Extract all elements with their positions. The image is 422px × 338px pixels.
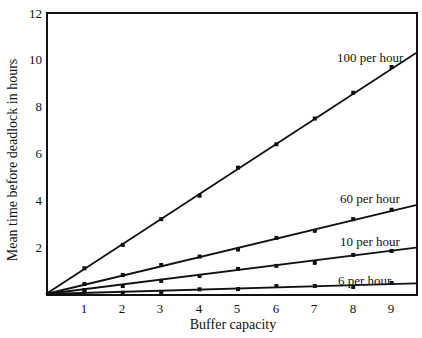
series-layer xyxy=(46,53,416,295)
data-point-marker xyxy=(236,248,240,252)
data-point-marker xyxy=(351,91,355,95)
data-point-marker xyxy=(313,261,317,265)
data-point-marker xyxy=(236,166,240,170)
y-axis-label: Mean time before deadlock in hours xyxy=(5,59,20,262)
data-point-marker xyxy=(198,287,202,291)
x-tick-label: 8 xyxy=(350,301,357,316)
data-point-marker xyxy=(274,284,278,288)
x-tick-label: 5 xyxy=(234,301,241,316)
data-point-marker xyxy=(236,287,240,291)
chart: Mean time before deadlock in hours Buffe… xyxy=(0,0,422,338)
y-tick-label: 12 xyxy=(29,6,42,21)
data-point-marker xyxy=(159,217,163,221)
x-tick-label: 7 xyxy=(311,301,318,316)
data-point-marker xyxy=(82,266,86,270)
x-tick-label: 4 xyxy=(196,301,203,316)
y-tick-label: 8 xyxy=(36,99,43,114)
data-point-marker xyxy=(82,290,86,294)
data-point-marker xyxy=(390,65,394,69)
data-point-marker xyxy=(159,279,163,283)
series-label-10-per-hour: 10 per hour xyxy=(340,234,401,249)
x-tick-label: 9 xyxy=(388,301,395,316)
data-point-marker xyxy=(274,264,278,268)
x-tick-label: 1 xyxy=(81,301,88,316)
y-tick-label: 2 xyxy=(36,240,43,255)
series-label-60-per-hour: 60 per hour xyxy=(340,191,401,206)
data-point-marker xyxy=(274,236,278,240)
data-point-marker xyxy=(121,284,125,288)
data-point-marker xyxy=(121,273,125,277)
series-100-per-hour xyxy=(46,53,416,294)
data-point-marker xyxy=(274,142,278,146)
data-point-marker xyxy=(313,284,317,288)
data-point-marker xyxy=(159,291,163,295)
y-tick-labels: 2 4 6 8 10 12 xyxy=(29,6,43,255)
line-chart: Mean time before deadlock in hours Buffe… xyxy=(0,0,422,338)
data-point-marker xyxy=(198,274,202,278)
data-point-marker xyxy=(390,208,394,212)
data-point-marker xyxy=(198,255,202,259)
data-point-marker xyxy=(121,243,125,247)
data-point-marker xyxy=(313,117,317,121)
series-label-100-per-hour: 100 per hour xyxy=(337,50,404,65)
data-point-marker xyxy=(351,253,355,257)
y-tick-label: 10 xyxy=(29,52,42,67)
x-tick-label: 6 xyxy=(273,301,280,316)
data-point-marker xyxy=(198,194,202,198)
x-tick-labels: 1 2 3 4 5 6 7 8 9 xyxy=(81,301,395,316)
x-tick-label: 3 xyxy=(157,301,164,316)
data-point-marker xyxy=(313,229,317,233)
data-point-marker xyxy=(121,291,125,295)
data-point-marker xyxy=(390,249,394,253)
data-point-marker xyxy=(159,263,163,267)
data-point-marker xyxy=(236,267,240,271)
series-label-6-per-hour: 6 per hour xyxy=(338,273,392,288)
x-axis-label: Buffer capacity xyxy=(190,317,276,332)
data-point-marker xyxy=(82,282,86,286)
y-tick-label: 4 xyxy=(36,193,43,208)
series-line xyxy=(46,53,416,294)
y-tick-label: 6 xyxy=(36,146,43,161)
x-tick-label: 2 xyxy=(119,301,126,316)
data-point-marker xyxy=(351,217,355,221)
